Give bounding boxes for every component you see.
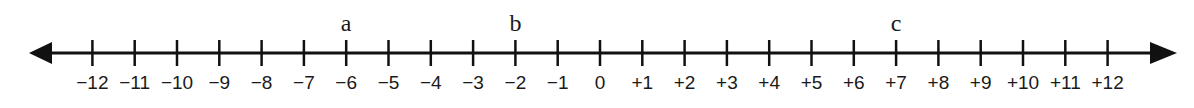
tick-label: +12 [1091,72,1123,94]
tick-label: +1 [631,72,653,94]
tick-label: −7 [293,72,315,94]
tick-label: +4 [758,72,780,94]
right-arrow-icon [1150,42,1177,64]
number-line-diagram: −12−11−10−9−8−7−6−5−4−3−2−10+1+2+3+4+5+6… [0,0,1194,108]
tick-label: −5 [378,72,400,94]
tick-label: +3 [716,72,738,94]
tick-label: +5 [801,72,823,94]
tick-label: −2 [505,72,527,94]
left-arrow-icon [29,42,52,64]
tick-label: 0 [595,72,606,94]
tick-label: −9 [208,72,230,94]
tick-label: −3 [462,72,484,94]
tick-label: +10 [1007,72,1039,94]
tick-label: −11 [119,72,150,94]
tick-label: +6 [843,72,865,94]
tick-label: −1 [547,72,569,94]
tick-label: +7 [885,72,907,94]
tick-label: +2 [674,72,696,94]
tick-label: −4 [420,72,442,94]
tick-label: +11 [1050,72,1081,94]
point-label-c: c [891,10,902,37]
tick-label: +9 [970,72,992,94]
tick-label: −6 [335,72,357,94]
tick-label: −10 [161,72,193,94]
point-label-a: a [341,10,352,37]
point-label-b: b [509,10,521,37]
tick-label: −12 [76,72,108,94]
tick-label: −8 [251,72,273,94]
tick-label: +8 [928,72,950,94]
